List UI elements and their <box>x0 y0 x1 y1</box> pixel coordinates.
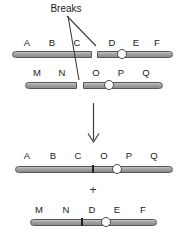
locus-label: Q <box>150 151 157 161</box>
chromosome-segment-mn <box>25 82 77 89</box>
break-pointer-line-1 <box>67 16 96 46</box>
plus-sign: + <box>89 183 96 197</box>
locus-label: P <box>126 151 132 161</box>
centromere <box>117 49 127 59</box>
junction-mark <box>81 218 83 226</box>
translocation-diagram: Breaks A B C D E F M N O P Q A B C O P Q… <box>0 0 183 239</box>
derivative-2-bar <box>30 219 157 226</box>
down-arrowhead-icon <box>88 134 99 143</box>
locus-label: D <box>109 38 116 48</box>
locus-label: N <box>59 68 66 78</box>
locus-label: M <box>33 68 41 78</box>
locus-label: O <box>100 151 107 161</box>
locus-label: F <box>140 205 146 215</box>
locus-label: N <box>63 205 70 215</box>
breaks-label: Breaks <box>50 3 81 14</box>
junction-mark <box>92 165 94 173</box>
locus-label: F <box>154 38 160 48</box>
locus-label: C <box>75 151 82 161</box>
locus-label: M <box>35 205 43 215</box>
locus-label: O <box>92 68 99 78</box>
centromere <box>112 164 122 174</box>
locus-label: P <box>118 68 124 78</box>
centromere <box>104 80 114 90</box>
locus-label: A <box>24 38 30 48</box>
locus-label: E <box>114 205 120 215</box>
derivative-1-bar <box>15 166 173 173</box>
locus-label: D <box>89 205 96 215</box>
locus-label: B <box>50 151 56 161</box>
chromosome-segment-abc <box>12 51 92 58</box>
centromere <box>101 217 111 227</box>
locus-label: E <box>133 38 139 48</box>
chromosome-segment-def <box>97 51 173 58</box>
chromosome-segment-opq <box>83 82 163 89</box>
break-pointer-line-2 <box>68 16 79 80</box>
locus-label: Q <box>142 68 149 78</box>
locus-label: A <box>24 151 30 161</box>
locus-label: B <box>49 38 55 48</box>
locus-label: C <box>74 38 81 48</box>
